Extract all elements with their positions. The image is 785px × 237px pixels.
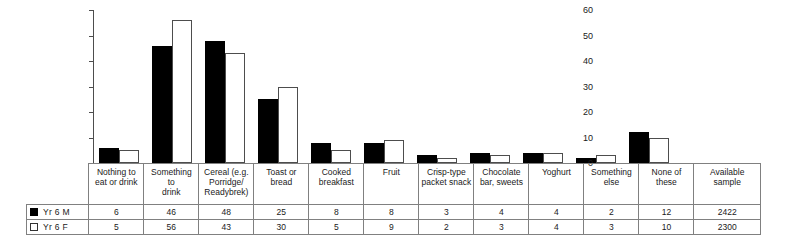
y-axis-tick-label: 60 (569, 6, 593, 15)
table-header-line: Crisp-type (421, 167, 471, 177)
table-header-line: else (586, 177, 636, 187)
y-axis-tick (89, 10, 94, 11)
table-header-line: Something to (146, 167, 196, 187)
y-axis-tick-label: 40 (569, 57, 593, 66)
table-header-cell: None of these (639, 164, 694, 205)
table-header-cell: Nothing toeat or drink (89, 164, 144, 205)
table-header-line: Fruit (366, 167, 416, 177)
bar-male (417, 155, 437, 163)
y-axis-tick (89, 138, 94, 139)
table-value-cell: 5 (89, 220, 144, 235)
y-axis-tick (89, 112, 94, 113)
table-header-line: Something (586, 167, 636, 177)
bar-female (172, 20, 192, 163)
table-header-line: breakfast (311, 177, 361, 187)
table-header-line: packet snack (421, 177, 471, 187)
bar-male (99, 148, 119, 163)
table-header-cell: Crisp-typepacket snack (419, 164, 474, 205)
y-axis-tick-label: 50 (569, 32, 593, 41)
table-value-cell: 46 (144, 205, 199, 220)
table-value-cell: 12 (639, 205, 694, 220)
table-header-cell: Toast orbread (254, 164, 309, 205)
legend-swatch-hollow-icon (30, 223, 38, 231)
legend-cell: Yr 6 M (27, 205, 89, 220)
table-value-cell: 3 (584, 220, 639, 235)
table-header-cell: Fruit (364, 164, 419, 205)
table-value-cell: 48 (199, 205, 254, 220)
bar-group (466, 10, 519, 163)
table-value-cell: 4 (529, 205, 584, 220)
table-value-cell: 25 (254, 205, 309, 220)
bar-male (629, 132, 649, 163)
bar-group (625, 10, 678, 163)
table-value-cell: 9 (364, 220, 419, 235)
table-value-cell: 8 (364, 205, 419, 220)
table-header-cell: Somethingelse (584, 164, 639, 205)
y-axis-tick (89, 87, 94, 88)
table-header-cell: Cereal (e.g.Porridge/Readybrek) (199, 164, 254, 205)
table-header-line: sample (696, 177, 758, 187)
bar-group (148, 10, 201, 163)
table-header-cell: Availablesample (694, 164, 761, 205)
legend-label: Yr 6 F (43, 222, 68, 232)
y-axis-tick (89, 36, 94, 37)
bar-female (596, 155, 616, 163)
bar-male (311, 143, 331, 163)
table-header-line: Porridge/ (201, 177, 251, 187)
table-header-line: Available (696, 167, 758, 177)
table-value-cell: 43 (199, 220, 254, 235)
table-row: Yr 6 F5564330592343102300 (27, 220, 761, 235)
bar-group (254, 10, 307, 163)
bar-female (490, 155, 510, 163)
legend-swatch-filled-icon (30, 208, 38, 216)
bar-female (119, 150, 139, 163)
table-header-corner (27, 164, 89, 205)
table-value-cell: 6 (89, 205, 144, 220)
y-axis (80, 10, 94, 163)
table-header-cell: Something todrink (144, 164, 199, 205)
chart-figure: 6050403020100 Nothing toeat or drinkSome… (0, 0, 785, 237)
table-value-cell: 56 (144, 220, 199, 235)
table-header-line: None of these (641, 167, 691, 187)
bar-female (225, 53, 245, 163)
bar-male (364, 143, 384, 163)
table-value-cell: 3 (419, 205, 474, 220)
table-header-line: Chocolate (476, 167, 526, 177)
bar-male (258, 99, 278, 163)
table-value-cell: 10 (639, 220, 694, 235)
table-header-line: Cereal (e.g. (201, 167, 251, 177)
bar-group (413, 10, 466, 163)
table-value-cell: 5 (309, 220, 364, 235)
table-header-line: drink (146, 187, 196, 197)
y-axis-tick (89, 61, 94, 62)
table-header-line: Yoghurt (531, 167, 581, 177)
bar-female (278, 87, 298, 164)
bar-male (523, 153, 543, 163)
plot-area: 6050403020100 (80, 10, 675, 165)
data-table-wrapper: Nothing toeat or drinkSomething todrinkC… (26, 163, 761, 235)
table-value-cell: 4 (474, 205, 529, 220)
table-value-cell: 2 (584, 205, 639, 220)
data-table: Nothing toeat or drinkSomething todrinkC… (26, 163, 761, 235)
table-header-line: Toast or (256, 167, 306, 177)
bar-male (470, 153, 490, 163)
y-axis-tick-label: 20 (569, 108, 593, 117)
y-axis-tick-label: 30 (569, 83, 593, 92)
table-header-line: Readybrek) (201, 187, 251, 197)
bar-female (649, 138, 669, 164)
table-header-cell: Cookedbreakfast (309, 164, 364, 205)
bar-group (201, 10, 254, 163)
table-header-line: eat or drink (91, 177, 141, 187)
table-header-cell: Yoghurt (529, 164, 584, 205)
table-value-cell: 2 (419, 220, 474, 235)
bar-male (152, 46, 172, 163)
bar-group (307, 10, 360, 163)
legend-cell: Yr 6 F (27, 220, 89, 235)
bar-group (360, 10, 413, 163)
table-value-cell: 30 (254, 220, 309, 235)
bar-female (543, 153, 563, 163)
table-value-cell: 4 (529, 220, 584, 235)
table-header-cell: Chocolatebar, sweets (474, 164, 529, 205)
table-header-line: bar, sweets (476, 177, 526, 187)
table-header-row: Nothing toeat or drinkSomething todrinkC… (27, 164, 761, 205)
